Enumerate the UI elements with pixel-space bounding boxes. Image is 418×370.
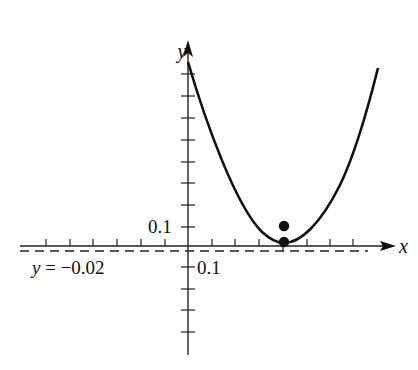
point-above-minimum [279, 221, 289, 231]
y-tick-label: 0.1 [148, 216, 172, 237]
dashed-line-label: y = −0.02 [30, 257, 105, 278]
x-axis-label: x [398, 235, 408, 257]
point-at-minimum [279, 237, 289, 247]
parabola-curve [188, 62, 378, 243]
x-tick-label: 0.1 [197, 257, 221, 278]
y-axis-label: y [176, 40, 187, 63]
chart-canvas: y x 0.1 0.1 y = −0.02 [0, 0, 418, 370]
